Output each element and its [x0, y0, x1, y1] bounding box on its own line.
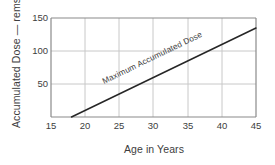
plot-area: Maximum Accumulated Dose	[0, 0, 275, 165]
vertical-gridlines	[85, 18, 222, 117]
chart-container: Accumulated Dose — rems 150 100 50 15 20…	[0, 0, 275, 165]
series-line	[72, 28, 257, 117]
data-series-maximum-accumulated-dose	[72, 28, 257, 117]
